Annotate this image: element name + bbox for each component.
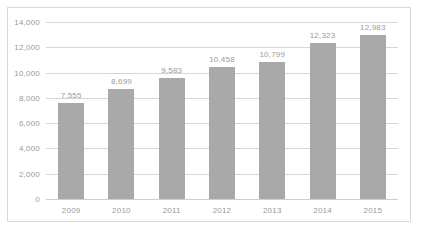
bar[interactable] [209, 67, 235, 199]
x-axis-tick-label: 2011 [147, 201, 197, 215]
bar[interactable] [259, 62, 285, 199]
y-axis-tick-label: 0 [35, 195, 40, 204]
bar-value-label: 9,583 [161, 66, 182, 75]
bar-value-label: 10,458 [209, 55, 235, 64]
bar[interactable] [108, 89, 134, 199]
bar-slot: 10,799 [247, 22, 297, 199]
bar[interactable] [58, 103, 84, 199]
x-axis-tick-labels: 2009201020112012201320142015 [46, 201, 398, 221]
bar-slot: 12,323 [297, 22, 347, 199]
plot-area: 02,0004,0006,0008,00010,00012,00014,000 … [46, 22, 398, 199]
bar-slot: 8,699 [96, 22, 146, 199]
x-axis-tick-label: 2014 [297, 201, 347, 215]
bar-slot: 10,458 [197, 22, 247, 199]
x-axis-tick-label: 2013 [247, 201, 297, 215]
bar-value-label: 12,323 [310, 31, 336, 40]
bar-series: 7,5558,6999,58310,45810,79912,32312,983 [46, 22, 398, 199]
x-axis-tick-label: 2010 [96, 201, 146, 215]
y-axis-tick-label: 10,000 [14, 68, 40, 77]
bar-value-label: 8,699 [111, 77, 132, 86]
bar-slot: 12,983 [348, 22, 398, 199]
y-axis-tick-label: 2,000 [19, 169, 40, 178]
y-axis-tick-label: 8,000 [19, 93, 40, 102]
bar-value-label: 7,555 [61, 91, 82, 100]
gridline [46, 199, 398, 200]
bar-slot: 7,555 [46, 22, 96, 199]
x-axis-tick-label: 2012 [197, 201, 247, 215]
x-axis-tick-label: 2009 [46, 201, 96, 215]
y-axis-tick-label: 6,000 [19, 119, 40, 128]
y-axis-tick-label: 14,000 [14, 18, 40, 27]
bar[interactable] [360, 35, 386, 199]
bar[interactable] [159, 78, 185, 199]
chart-frame: 02,0004,0006,0008,00010,00012,00014,000 … [7, 7, 411, 222]
bar-value-label: 10,799 [259, 50, 285, 59]
bar[interactable] [310, 43, 336, 199]
y-axis-tick-label: 12,000 [14, 43, 40, 52]
bar-value-label: 12,983 [360, 23, 386, 32]
bar-slot: 9,583 [147, 22, 197, 199]
x-axis-tick-label: 2015 [348, 201, 398, 215]
y-axis-tick-label: 4,000 [19, 144, 40, 153]
